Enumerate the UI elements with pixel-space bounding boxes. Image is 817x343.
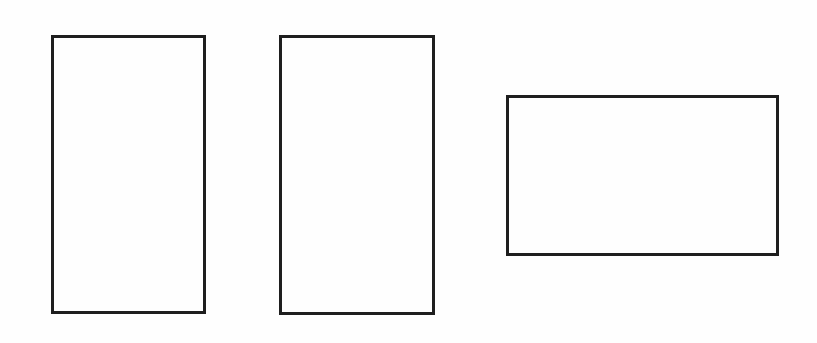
portrait-rectangle-middle bbox=[279, 35, 435, 315]
landscape-rectangle-right bbox=[506, 95, 779, 256]
portrait-rectangle-left bbox=[51, 35, 206, 314]
diagram-canvas bbox=[0, 0, 817, 343]
